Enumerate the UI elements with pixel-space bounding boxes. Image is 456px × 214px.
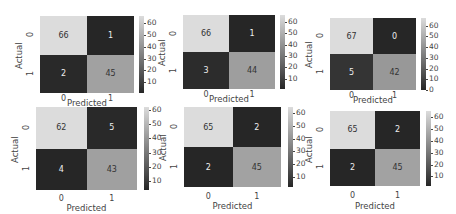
colorbar-tick-label: 30 (288, 52, 298, 60)
colorbar-tick-label: 0 (429, 86, 434, 94)
y-tick-label: 1 (22, 166, 31, 171)
colorbar-tick-label: 20 (288, 63, 298, 71)
heatmap-cell: 1 (229, 15, 275, 52)
x-axis-label: Predicted (353, 95, 393, 105)
colorbar-tick-label: 50 (147, 31, 157, 39)
colorbar-tick-label: 30 (434, 149, 444, 157)
heatmap-cell: 66 (40, 16, 87, 55)
x-tick-label: 1 (109, 194, 114, 203)
colorbar-tick-label: 10 (296, 173, 306, 181)
colorbar-tick-label: 60 (296, 109, 306, 117)
y-tick-label: 0 (26, 32, 35, 37)
heatmap-cell: 5 (330, 54, 373, 90)
colorbar-tick-label: 10 (429, 75, 439, 83)
colorbar-tick-label: 20 (429, 65, 439, 73)
colorbar-tick-label: 60 (429, 22, 439, 30)
heatmap: 652245 (330, 111, 420, 186)
y-axis-label: Actual (14, 42, 24, 69)
y-axis-label: Actual (157, 39, 167, 66)
heatmap-cell: 67 (330, 18, 373, 54)
colorbar (144, 107, 149, 190)
heatmap: 661344 (183, 15, 275, 89)
y-axis-label: Actual (304, 136, 314, 163)
y-tick-label: 0 (169, 30, 178, 35)
x-tick-label: 0 (203, 90, 208, 99)
heatmap-cell: 66 (183, 15, 229, 52)
colorbar-tick-label: 10 (147, 78, 157, 86)
heatmap-cell: 65 (330, 111, 375, 149)
x-tick-label: 0 (206, 192, 211, 201)
heatmap-cell: 3 (183, 52, 229, 89)
colorbar-tick-label: 50 (288, 29, 298, 37)
y-axis-label: Actual (304, 41, 314, 68)
y-axis-label: Actual (158, 134, 168, 161)
x-tick-label: 0 (61, 94, 66, 103)
colorbar (288, 107, 293, 187)
heatmap-cell: 5 (87, 107, 138, 149)
heatmap-cell: 1 (87, 16, 134, 55)
colorbar-tick-label: 40 (429, 43, 439, 51)
colorbar-tick-label: 10 (434, 172, 444, 180)
x-tick-label: 1 (254, 192, 259, 201)
x-axis-label: Predicted (67, 203, 107, 213)
colorbar-tick-label: 20 (434, 161, 444, 169)
y-tick-label: 0 (316, 33, 325, 38)
x-axis-label: Predicted (355, 201, 395, 211)
colorbar (426, 111, 431, 186)
colorbar-tick-label: 10 (288, 75, 298, 83)
colorbar-tick-label: 10 (152, 177, 162, 185)
heatmap-cell: 42 (373, 54, 416, 90)
heatmap-cell: 43 (87, 149, 138, 191)
heatmap-cell: 2 (330, 149, 375, 187)
heatmap-cell: 2 (40, 55, 87, 94)
x-axis-label: Predicted (209, 94, 249, 104)
heatmap-cell: 2 (233, 107, 282, 147)
colorbar-tick-label: 60 (434, 113, 444, 121)
colorbar-tick-label: 60 (152, 106, 162, 114)
heatmap-cell: 45 (375, 149, 420, 187)
heatmap-cell: 62 (36, 107, 87, 149)
heatmap: 625443 (36, 107, 137, 190)
y-axis-label: Actual (10, 136, 20, 163)
x-tick-label: 1 (249, 90, 254, 99)
heatmap-cell: 45 (233, 147, 282, 187)
x-tick-label: 1 (108, 94, 113, 103)
colorbar-tick-label: 50 (434, 125, 444, 133)
x-tick-label: 1 (395, 191, 400, 200)
y-tick-label: 1 (316, 69, 325, 74)
heatmap-cell: 0 (373, 18, 416, 54)
heatmap-cell: 65 (184, 107, 233, 147)
y-tick-label: 0 (170, 124, 179, 129)
y-tick-label: 1 (170, 164, 179, 169)
x-tick-label: 0 (59, 194, 64, 203)
y-tick-label: 0 (316, 127, 325, 132)
colorbar-tick-label: 60 (147, 19, 157, 27)
colorbar-tick-label: 30 (429, 54, 439, 62)
heatmap: 661245 (40, 16, 134, 93)
y-tick-label: 1 (316, 164, 325, 169)
x-axis-label: Predicted (213, 201, 253, 211)
heatmap: 670542 (330, 18, 416, 90)
y-tick-label: 0 (22, 125, 31, 130)
colorbar-tick-label: 20 (147, 66, 157, 74)
heatmap: 652245 (184, 107, 281, 187)
y-tick-label: 1 (26, 71, 35, 76)
colorbar-tick-label: 40 (288, 41, 298, 49)
heatmap-cell: 45 (87, 55, 134, 94)
colorbar-tick-label: 40 (434, 137, 444, 145)
colorbar-tick-label: 50 (152, 120, 162, 128)
colorbar-tick-label: 50 (429, 32, 439, 40)
heatmap-cell: 2 (184, 147, 233, 187)
colorbar-tick-label: 50 (296, 122, 306, 130)
colorbar-tick-label: 60 (288, 18, 298, 26)
heatmap-cell: 4 (36, 149, 87, 191)
colorbar-tick-label: 20 (152, 163, 162, 171)
heatmap-cell: 2 (375, 111, 420, 149)
x-tick-label: 0 (350, 191, 355, 200)
colorbar-tick-label: 30 (147, 55, 157, 63)
y-tick-label: 1 (169, 67, 178, 72)
heatmap-cell: 44 (229, 52, 275, 89)
colorbar-tick-label: 40 (147, 43, 157, 51)
